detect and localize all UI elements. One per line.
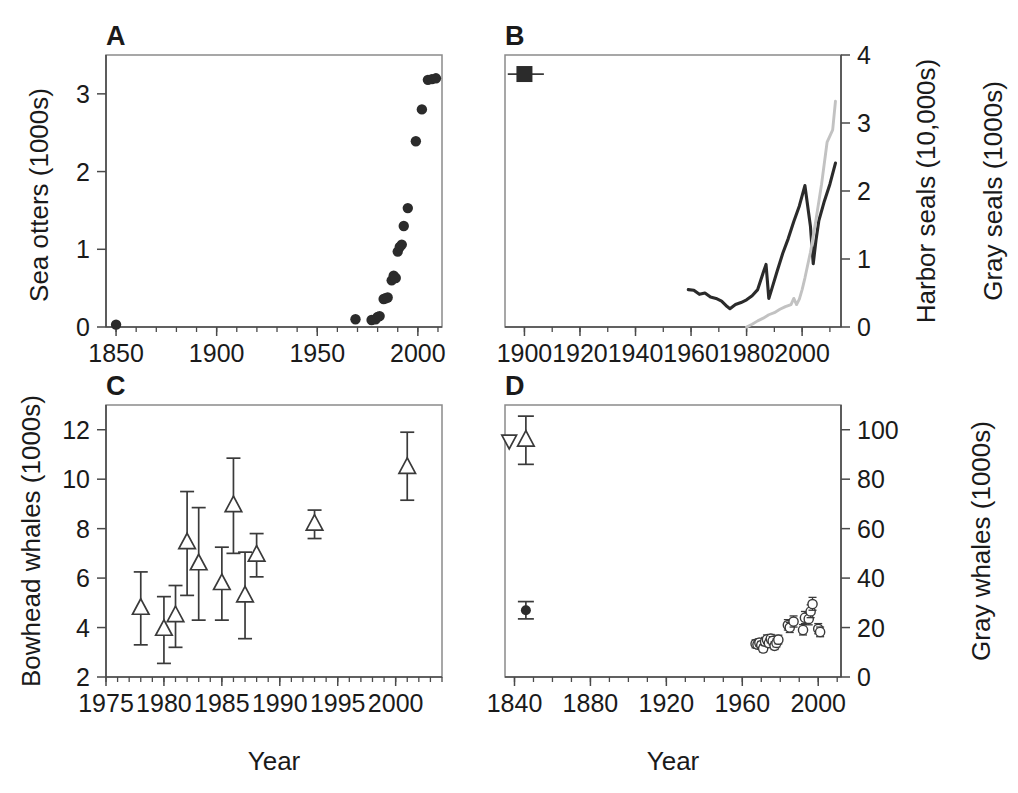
panel-a-y-axis-title: Sea otters (1000s) <box>24 88 54 302</box>
data-point-sea-otter <box>111 319 121 329</box>
panel-c-letter: C <box>106 371 126 401</box>
y-tick-label: 0 <box>76 313 90 341</box>
panel-d-y-axis-title: Gray whales (1000s) <box>966 421 996 661</box>
y-tick-label: 80 <box>857 465 885 493</box>
data-point-historic-low <box>521 605 531 615</box>
data-point-gray-whale <box>789 617 798 626</box>
data-point-sea-otter <box>397 239 407 249</box>
data-point-gray-whale <box>774 635 783 644</box>
panel-b-y-axis-title-line1: Harbor seals (10,000s) <box>911 59 941 323</box>
x-tick-label: 1990 <box>252 689 308 717</box>
panel-b-y-axis-title-line2: Gray seals (1000s) <box>978 81 1008 301</box>
panel-a: A Sea otters (1000s) 1850190019502000012… <box>24 21 446 367</box>
panel-d-frame <box>505 405 841 677</box>
x-tick-label: 1940 <box>608 339 664 367</box>
data-point-sea-otter <box>411 136 421 146</box>
data-point-sea-otter <box>391 273 401 283</box>
y-tick-label: 8 <box>76 515 90 543</box>
y-tick-label: 0 <box>857 663 871 691</box>
y-tick-label: 20 <box>857 614 885 642</box>
panel-b-axes: 19001920194019601980200001234 <box>497 41 871 367</box>
x-tick-label: 1850 <box>88 339 144 367</box>
x-tick-label: 1960 <box>714 689 770 717</box>
panel-b: B Harbor seals (10,000s) Gray seals (100… <box>497 21 1008 367</box>
panel-d-x-axis-title: Year <box>647 746 700 776</box>
y-tick-label: 4 <box>76 614 90 642</box>
y-tick-label: 40 <box>857 564 885 592</box>
data-point-sea-otter <box>382 292 392 302</box>
data-point-sea-otter <box>403 203 413 213</box>
panel-d-data-points <box>502 416 825 653</box>
data-point-historic-high <box>518 431 535 446</box>
data-point-sea-otter <box>374 311 384 321</box>
data-point-bowhead-whale <box>190 554 207 569</box>
x-tick-label: 1975 <box>78 689 134 717</box>
data-point-sea-otter <box>399 221 409 231</box>
panel-a-letter: A <box>106 21 126 51</box>
figure-container: A Sea otters (1000s) 1850190019502000012… <box>0 0 1018 793</box>
x-tick-label: 2000 <box>368 689 424 717</box>
y-tick-label: 1 <box>76 235 90 263</box>
data-point-gray-whale <box>808 599 817 608</box>
x-tick-label: 2000 <box>774 339 830 367</box>
x-tick-label: 1995 <box>310 689 366 717</box>
x-tick-label: 2000 <box>790 689 846 717</box>
x-tick-label: 1900 <box>189 339 245 367</box>
data-point-bowhead-whale <box>306 515 323 530</box>
panel-a-axes: 18501900195020000123 <box>76 55 446 367</box>
x-tick-label: 1840 <box>487 689 543 717</box>
panel-c-x-axis-title: Year <box>248 746 301 776</box>
x-tick-label: 1880 <box>563 689 619 717</box>
x-tick-label: 1950 <box>289 339 345 367</box>
y-tick-label: 60 <box>857 515 885 543</box>
x-tick-label: 1980 <box>719 339 775 367</box>
panel-d: D Gray whales (1000s) Year 1840188019201… <box>487 371 996 776</box>
x-tick-label: 1960 <box>663 339 719 367</box>
data-point-bowhead-whale <box>179 533 196 548</box>
data-point-bowhead-whale <box>132 599 149 614</box>
data-point-sea-otter <box>417 104 427 114</box>
data-point-bowhead-whale <box>399 458 416 473</box>
y-tick-label: 6 <box>76 564 90 592</box>
panel-a-frame <box>106 55 442 327</box>
x-tick-label: 1920 <box>552 339 608 367</box>
y-tick-label: 2 <box>76 663 90 691</box>
data-point-bowhead-whale <box>248 546 265 561</box>
panel-b-series <box>508 66 836 327</box>
y-tick-label: 12 <box>62 416 90 444</box>
y-tick-label: 0 <box>857 313 871 341</box>
panel-c-data-points <box>132 432 415 663</box>
panel-d-axes: 18401880192019602000020406080100 <box>487 405 899 717</box>
data-point-bowhead-whale <box>225 496 242 511</box>
historic-abundance-marker <box>516 66 532 82</box>
y-tick-label: 100 <box>857 416 899 444</box>
data-point-sea-otter <box>350 314 360 324</box>
y-tick-label: 3 <box>76 80 90 108</box>
y-tick-label: 3 <box>857 109 871 137</box>
y-tick-label: 4 <box>857 41 871 69</box>
data-point-gray-whale <box>798 625 807 634</box>
y-tick-label: 2 <box>857 177 871 205</box>
panel-b-letter: B <box>505 21 525 51</box>
y-tick-label: 2 <box>76 158 90 186</box>
panel-b-frame <box>505 55 841 327</box>
panel-a-data-points <box>111 73 441 330</box>
x-tick-label: 1900 <box>497 339 553 367</box>
data-point-bowhead-whale <box>167 606 184 621</box>
panel-c-frame <box>106 405 442 677</box>
data-point-sea-otter <box>431 73 441 83</box>
data-point-bowhead-whale <box>237 586 254 601</box>
multi-panel-figure: A Sea otters (1000s) 1850190019502000012… <box>0 0 1018 793</box>
data-point-historic-alt <box>502 435 517 449</box>
y-tick-label: 10 <box>62 465 90 493</box>
y-tick-label: 1 <box>857 245 871 273</box>
panel-d-letter: D <box>505 371 525 401</box>
panel-c-y-axis-title: Bowhead whales (1000s) <box>16 395 46 687</box>
data-point-gray-whale <box>816 627 825 636</box>
panel-c: C Bowhead whales (1000s) Year 1975198019… <box>16 371 442 776</box>
data-point-bowhead-whale <box>214 574 231 589</box>
x-tick-label: 1920 <box>639 689 695 717</box>
x-tick-label: 1985 <box>194 689 250 717</box>
x-tick-label: 2000 <box>390 339 446 367</box>
x-tick-label: 1980 <box>136 689 192 717</box>
